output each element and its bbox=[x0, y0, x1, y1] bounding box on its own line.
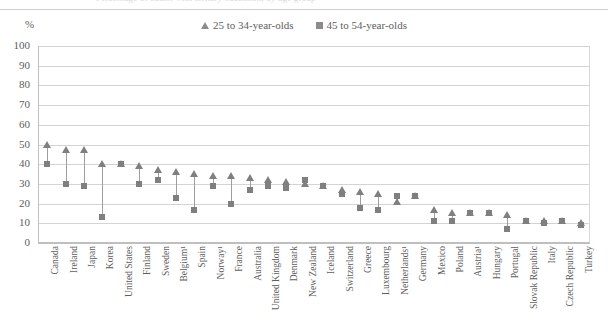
triangle-marker-icon bbox=[201, 22, 209, 29]
x-axis-tick-label: Belgium¹ bbox=[180, 246, 190, 282]
gridline bbox=[38, 46, 590, 47]
triangle-data-point bbox=[43, 141, 51, 148]
triangle-data-point bbox=[485, 209, 493, 216]
x-axis-tick-label: Germany bbox=[419, 246, 429, 281]
triangle-data-point bbox=[98, 160, 106, 167]
plot-area bbox=[38, 46, 590, 243]
square-data-point bbox=[155, 177, 161, 183]
triangle-data-point bbox=[135, 162, 143, 169]
square-data-point bbox=[265, 183, 271, 189]
x-axis-tick-label: Mexico bbox=[438, 246, 448, 275]
square-data-point bbox=[136, 181, 142, 187]
legend-item-45-54: 45 to 54-year-olds bbox=[316, 19, 407, 31]
triangle-data-point bbox=[540, 217, 548, 224]
y-axis-unit-label: % bbox=[25, 18, 34, 30]
x-axis-tick-label: Turkey bbox=[585, 246, 595, 273]
triangle-data-point bbox=[577, 219, 585, 226]
triangle-data-point bbox=[301, 180, 309, 187]
x-axis-tick-label: Hungary bbox=[493, 246, 503, 279]
x-axis-tick-label: New Zealand bbox=[309, 246, 319, 297]
gridline bbox=[38, 105, 590, 106]
triangle-data-point bbox=[246, 174, 254, 181]
y-axis-tick-label: 100 bbox=[4, 40, 30, 51]
triangle-data-point bbox=[393, 198, 401, 205]
square-data-point bbox=[81, 183, 87, 189]
x-axis-tick-label: Netherlands¹ bbox=[401, 246, 411, 295]
triangle-data-point bbox=[356, 188, 364, 195]
gridline bbox=[38, 184, 590, 185]
y-axis-tick-label: 40 bbox=[4, 158, 30, 169]
x-axis-tick-label: Austria¹ bbox=[474, 246, 484, 277]
connector-line bbox=[66, 150, 67, 183]
y-axis-tick-label: 60 bbox=[4, 119, 30, 130]
gridline bbox=[38, 66, 590, 67]
x-axis-tick-label: Sweden bbox=[162, 246, 172, 276]
x-axis-tick-label: Italy bbox=[548, 246, 558, 263]
x-axis-tick-label: Australia bbox=[254, 246, 264, 281]
x-axis-tick-label: United Kingdom bbox=[272, 246, 282, 310]
x-axis-tick-label: Luxembourg bbox=[382, 246, 392, 295]
x-axis-tick-label: Ireland bbox=[70, 246, 80, 273]
x-axis-tick-label: Portugal bbox=[511, 246, 521, 278]
triangle-data-point bbox=[319, 182, 327, 189]
x-axis-tick-label: Greece bbox=[364, 246, 374, 273]
legend-item-25-34: 25 to 34-year-olds bbox=[201, 19, 293, 31]
clipped-header-text: Percentage of adults with tertiary educa… bbox=[96, 0, 316, 3]
connector-line bbox=[84, 150, 85, 185]
x-axis-tick-label: Korea bbox=[106, 246, 116, 269]
gridline bbox=[38, 145, 590, 146]
chart-container: Percentage of adults with tertiary educa… bbox=[0, 0, 608, 335]
square-data-point bbox=[504, 226, 510, 232]
square-data-point bbox=[228, 201, 234, 207]
square-data-point bbox=[357, 205, 363, 211]
triangle-data-point bbox=[338, 186, 346, 193]
gridline bbox=[38, 204, 590, 205]
clipped-header-strip: Percentage of adults with tertiary educa… bbox=[0, 0, 608, 9]
triangle-data-point bbox=[411, 192, 419, 199]
x-axis-tick-label: Slovak Republic bbox=[530, 246, 540, 309]
y-axis-tick-label: 90 bbox=[4, 60, 30, 71]
square-data-point bbox=[283, 185, 289, 191]
triangle-data-point bbox=[209, 172, 217, 179]
gridline bbox=[38, 243, 590, 244]
x-axis-tick-label: Switzerland bbox=[346, 246, 356, 291]
legend-label-25-34: 25 to 34-year-olds bbox=[213, 19, 293, 31]
gridline bbox=[38, 85, 590, 86]
y-axis-tick-label: 20 bbox=[4, 198, 30, 209]
triangle-data-point bbox=[558, 217, 566, 224]
square-data-point bbox=[431, 218, 437, 224]
x-axis-tick-label: United States bbox=[125, 246, 135, 297]
square-data-point bbox=[63, 181, 69, 187]
square-data-point bbox=[99, 214, 105, 220]
header-divider bbox=[0, 9, 608, 10]
x-axis-labels: CanadaIrelandJapanKoreaUnited StatesFinl… bbox=[38, 246, 590, 335]
x-axis-tick-label: Denmark bbox=[290, 246, 300, 281]
y-axis-tick-label: 70 bbox=[4, 99, 30, 110]
triangle-data-point bbox=[117, 160, 125, 167]
triangle-data-point bbox=[522, 217, 530, 224]
square-data-point bbox=[191, 207, 197, 213]
triangle-data-point bbox=[466, 209, 474, 216]
gridline bbox=[38, 125, 590, 126]
x-axis-tick-label: France bbox=[235, 246, 245, 272]
y-axis-tick-label: 30 bbox=[4, 178, 30, 189]
triangle-data-point bbox=[282, 178, 290, 185]
triangle-data-point bbox=[430, 206, 438, 213]
x-axis-tick-label: Iceland bbox=[327, 246, 337, 274]
y-axis-tick-label: 10 bbox=[4, 217, 30, 228]
square-data-point bbox=[375, 207, 381, 213]
x-axis-tick-label: Spain bbox=[198, 246, 208, 268]
y-axis-tick-label: 50 bbox=[4, 139, 30, 150]
y-axis-tick-label: 80 bbox=[4, 79, 30, 90]
triangle-data-point bbox=[190, 170, 198, 177]
square-data-point bbox=[173, 195, 179, 201]
triangle-data-point bbox=[80, 146, 88, 153]
triangle-data-point bbox=[503, 211, 511, 218]
connector-line bbox=[231, 176, 232, 204]
triangle-data-point bbox=[264, 176, 272, 183]
x-axis-tick-label: Norway¹ bbox=[217, 246, 227, 279]
triangle-data-point bbox=[374, 190, 382, 197]
triangle-data-point bbox=[227, 172, 235, 179]
square-data-point bbox=[449, 218, 455, 224]
x-axis-tick-label: Finland bbox=[143, 246, 153, 275]
